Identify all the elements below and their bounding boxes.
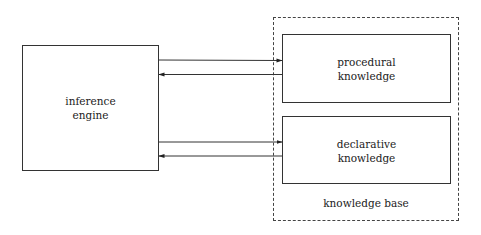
arrow-engine-to-procedural (159, 60, 282, 61)
arrows-layer (0, 0, 481, 235)
